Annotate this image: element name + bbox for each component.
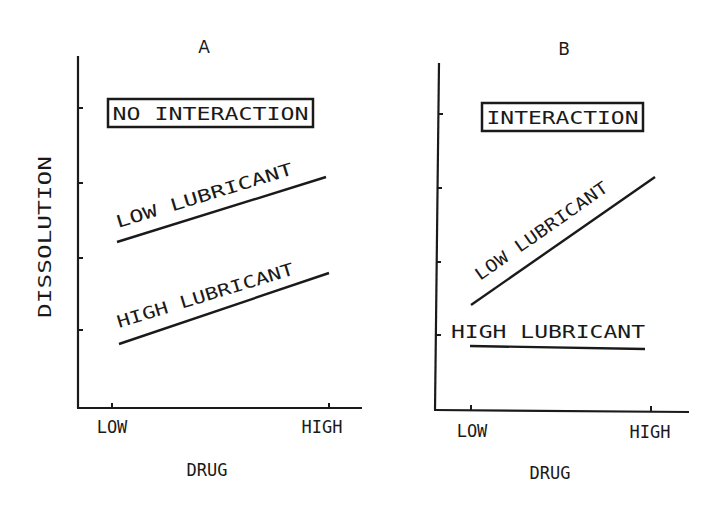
panel-b-y-axis	[435, 63, 439, 410]
panel-b-title: B	[558, 39, 570, 59]
panel-b-x-high-label: HIGH	[630, 422, 671, 442]
figure: A NO INTERACTION DISSOLUTION LOW LUBRICA…	[0, 0, 725, 505]
panel-a-x-high-label: HIGH	[302, 417, 343, 437]
panel-b-high-lubricant-label: HIGH LUBRICANT	[451, 322, 645, 342]
panel-a-x-low-label: LOW	[97, 417, 128, 437]
panel-b-low-lubricant-label: LOW LUBRICANT	[471, 177, 612, 284]
panel-b-annotation-label: INTERACTION	[487, 108, 639, 128]
panel-a-high-lubricant-label: HIGH LUBRICANT	[114, 259, 296, 332]
panel-b-high-lubricant-line	[470, 346, 645, 349]
panel-a-title: A	[198, 37, 210, 57]
panel-a-annotation-label: NO INTERACTION	[113, 104, 309, 124]
panel-a-x-axis-label: DRUG	[187, 460, 228, 480]
y-axis-label: DISSOLUTION	[35, 156, 55, 318]
panel-b-low-lubricant-line	[471, 177, 655, 305]
panel-a: A NO INTERACTION DISSOLUTION LOW LUBRICA…	[35, 37, 362, 480]
panel-b-x-low-label: LOW	[457, 421, 488, 441]
panel-b-x-axis-label: DRUG	[530, 463, 571, 483]
panel-b: B INTERACTION LOW LUBRICANT HIGH LUBRICA…	[434, 39, 689, 483]
